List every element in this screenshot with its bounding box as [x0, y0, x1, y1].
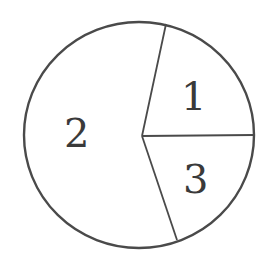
divider-line-right — [142, 135, 254, 136]
sector-diagram: 1 2 3 — [0, 0, 275, 264]
sector-label-3: 3 — [183, 156, 208, 202]
sector-label-2: 2 — [64, 110, 89, 156]
sector-label-1: 1 — [181, 73, 206, 119]
